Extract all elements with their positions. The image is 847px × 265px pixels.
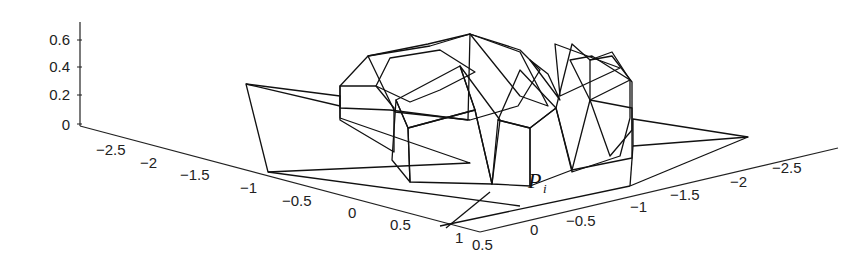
y-axis: 0.5 0 −0.5 −1 −1.5 −2 −2.5	[472, 148, 838, 253]
x-tick-label: −1.5	[180, 166, 210, 183]
x-tick-label: 0	[348, 204, 356, 221]
x-tick-label: 1	[455, 229, 463, 246]
z-axis: 0.6 0.4 0.2 0	[49, 22, 82, 133]
y-tick-label: −1	[630, 198, 647, 215]
y-tick-label: −2.5	[772, 159, 802, 176]
y-tick-label: −1.5	[670, 186, 700, 203]
base-triangulation	[246, 84, 748, 228]
y-tick-label: −0.5	[566, 212, 596, 229]
x-tick-label: −1	[240, 179, 257, 196]
annotation-main: P	[527, 168, 541, 193]
x-tick-label: 0.5	[390, 216, 411, 233]
y-tick-label: −2	[730, 173, 747, 190]
z-tick-label: 0.4	[49, 58, 70, 75]
annotation-sub: i	[543, 181, 547, 196]
x-tick-label: −0.5	[282, 192, 312, 209]
point-annotation: P i	[527, 168, 547, 196]
surface-plot: 0.6 0.4 0.2 0 −2.5 −2 −1.5 −1 −0.5 0 0.5…	[0, 0, 847, 265]
z-tick-label: 0.2	[49, 86, 70, 103]
x-tick-label: −2	[140, 154, 157, 171]
z-tick-label: 0	[62, 116, 70, 133]
y-tick-label: 0	[530, 221, 538, 238]
x-tick-label: −2.5	[96, 141, 126, 158]
z-tick-label: 0.6	[49, 31, 70, 48]
y-tick-label: 0.5	[472, 236, 493, 253]
